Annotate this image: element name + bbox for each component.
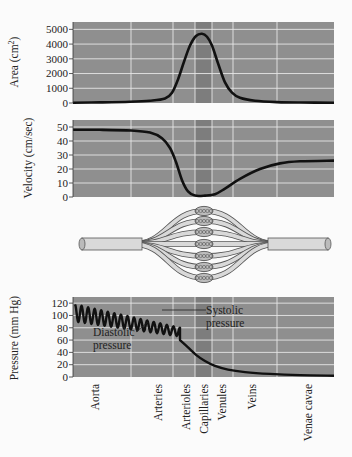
area-yticks: 010002000300040005000: [46, 22, 73, 109]
y-tick-label: 10: [57, 177, 69, 189]
y-tick-label: 1000: [46, 82, 69, 94]
y-tick-label: 30: [57, 149, 69, 161]
velocity-chart: 01020304050 Velocity (cm/sec): [22, 117, 334, 202]
pressure-chart: 020406080100120 Pressure (mm Hg) Systoli…: [8, 296, 334, 383]
region-label: Arteries: [152, 383, 164, 421]
y-tick-label: 80: [57, 322, 69, 334]
y-tick-label: 50: [57, 121, 69, 133]
region-label: Veins: [246, 383, 258, 409]
capillary-bed-icon: [195, 262, 213, 271]
diastolic-label-2: pressure: [93, 339, 131, 352]
capillary-bed-icon: [195, 273, 213, 282]
y-tick-label: 20: [57, 358, 69, 370]
y-tick-label: 0: [63, 191, 69, 203]
systolic-label: Systolic: [206, 304, 243, 317]
capillary-bed-icon: [195, 216, 213, 225]
capillary-bed-icon: [195, 239, 213, 248]
capillary-bed-icon: [195, 251, 213, 260]
y-tick-label: 0: [63, 97, 69, 109]
pressure-yticks: 020406080100120: [52, 297, 74, 383]
y-tick-label: 5000: [46, 23, 69, 35]
y-tick-label: 20: [57, 163, 69, 175]
tube-opening: [79, 238, 85, 250]
region-label: Capillaries: [198, 383, 211, 433]
area-chart: 010002000300040005000 Area (cm2): [7, 22, 334, 109]
y-tick-label: 100: [52, 309, 69, 321]
tube-opening: [325, 238, 331, 250]
diastolic-label: Diastolic: [93, 326, 135, 338]
y-tick-label: 60: [57, 334, 69, 346]
velocity-capillary-band: [195, 120, 212, 197]
vein-tube: [268, 238, 328, 250]
region-label: Aorta: [89, 384, 101, 410]
circulation-figure: 010002000300040005000 Area (cm2) 0102030…: [0, 0, 352, 457]
vessel-diagram: [79, 206, 331, 282]
y-tick-label: 0: [63, 371, 69, 383]
velocity-ylabel: Velocity (cm/sec): [22, 117, 35, 198]
figure-canvas: 010002000300040005000 Area (cm2) 0102030…: [0, 0, 352, 457]
capillary-bed-icon: [195, 206, 213, 215]
y-tick-label: 40: [57, 346, 69, 358]
y-tick-label: 4000: [46, 38, 69, 50]
pressure-ylabel: Pressure (mm Hg): [8, 296, 21, 380]
y-tick-label: 2000: [46, 67, 69, 79]
region-labels: AortaArteriesArteriolesCapillariesVenule…: [89, 383, 314, 441]
y-tick-label: 3000: [46, 53, 69, 65]
region-label: Venae cavae: [302, 384, 314, 441]
area-ylabel: Area (cm2): [7, 36, 21, 87]
y-tick-label: 40: [57, 135, 69, 147]
velocity-yticks: 01020304050: [57, 120, 73, 203]
region-label: Arterioles: [180, 383, 192, 430]
y-tick-label: 120: [52, 297, 69, 309]
systolic-label-2: pressure: [206, 317, 244, 330]
artery-tube: [82, 238, 142, 250]
capillary-bed-icon: [195, 227, 213, 236]
region-label: Venules: [216, 383, 228, 420]
